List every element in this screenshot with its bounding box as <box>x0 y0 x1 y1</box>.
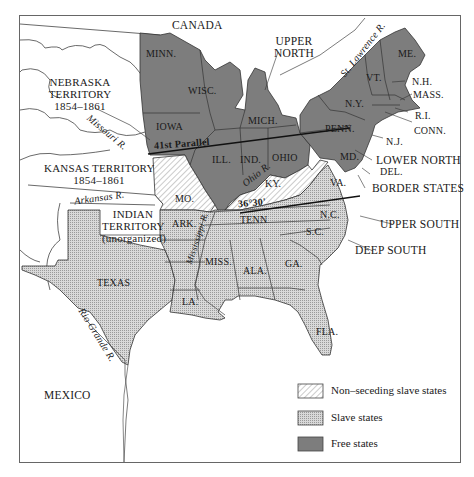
label-state-md: MD. <box>340 151 359 163</box>
label-state-ky: KY. <box>265 178 281 190</box>
nebraska-years: 1854–1861 <box>40 100 120 112</box>
label-state-ri: R.I. <box>415 110 431 122</box>
legend-item-slave: Slave states <box>331 411 383 423</box>
label-nebraska-territory: NEBRASKA TERRITORY 1854–1861 <box>40 76 120 112</box>
label-state-miss: MISS. <box>205 256 232 268</box>
label-state-ill: ILL. <box>212 154 231 166</box>
label-state-nj: N.J. <box>386 136 403 148</box>
upper-north-line1: UPPER <box>264 35 324 47</box>
label-state-nc: N.C. <box>320 209 340 221</box>
label-state-conn: CONN. <box>414 125 446 137</box>
label-state-vt: VT. <box>366 72 382 84</box>
label-region-border-states: BORDER STATES <box>372 182 464 194</box>
label-state-me: ME. <box>398 48 416 60</box>
label-state-penn: PENN. <box>325 123 355 135</box>
label-region-upper-south: UPPER SOUTH <box>380 218 459 230</box>
label-state-va: VA. <box>330 177 346 189</box>
label-canada: CANADA <box>172 19 222 31</box>
label-state-sc: S.C. <box>306 226 324 238</box>
upper-north-line2: NORTH <box>264 47 324 59</box>
label-state-fla: FLA. <box>316 326 338 338</box>
label-mexico: MEXICO <box>44 389 91 401</box>
label-region-deep-south: DEEP SOUTH <box>355 244 427 256</box>
indian-line2: TERRITORY <box>102 220 164 232</box>
label-kansas-territory: KANSAS TERRITORY 1854–1861 <box>44 162 154 186</box>
label-state-wisc: WISC. <box>188 85 217 97</box>
map-canvas <box>0 0 474 477</box>
legend-item-free: Free states <box>331 437 378 449</box>
label-region-upper-north: UPPER NORTH <box>264 35 324 59</box>
label-state-texas: TEXAS <box>97 277 130 289</box>
label-state-ny: N.Y. <box>345 98 364 110</box>
label-state-minn: MINN. <box>146 48 176 60</box>
label-state-iowa: IOWA <box>156 121 183 133</box>
indian-note: (unorganized) <box>102 232 164 244</box>
legend-swatch-hatch <box>298 384 323 398</box>
label-state-mo: MO. <box>175 193 194 205</box>
label-state-la: LA. <box>182 296 198 308</box>
legend-swatch-solid <box>298 437 323 451</box>
label-indian-territory: INDIAN TERRITORY (unorganized) <box>102 208 164 244</box>
label-state-mass: MASS. <box>413 89 444 101</box>
label-region-lower-north: LOWER NORTH <box>376 154 461 166</box>
indian-name: INDIAN <box>102 208 164 220</box>
kansas-years: 1854–1861 <box>44 174 154 186</box>
label-state-del: DEL. <box>380 166 403 178</box>
label-state-ind: IND. <box>240 154 261 166</box>
label-state-tenn: TENN <box>240 214 267 226</box>
nebraska-line2: TERRITORY <box>40 88 120 100</box>
kansas-name: KANSAS TERRITORY <box>44 162 154 174</box>
label-state-ohio: OHIO <box>272 152 298 164</box>
legend-swatch-grid <box>298 411 323 425</box>
nebraska-name: NEBRASKA <box>40 76 120 88</box>
label-state-ala: ALA. <box>243 265 267 277</box>
label-36-30: 36°30' <box>238 196 267 210</box>
label-state-ga: GA. <box>285 258 303 270</box>
label-state-mich: MICH. <box>248 115 278 127</box>
label-state-nh: N.H. <box>412 76 432 88</box>
legend-item-nonseceding: Non–seceding slave states <box>331 384 446 396</box>
